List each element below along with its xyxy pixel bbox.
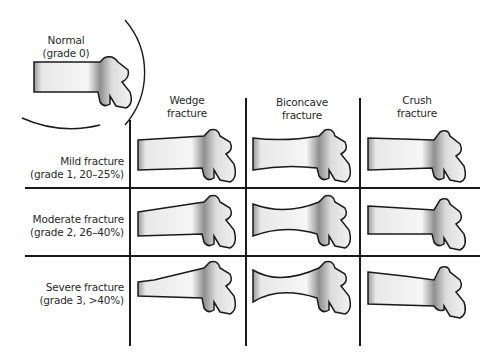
vertebra-biconcave-severe <box>249 260 361 324</box>
row-header-line: (grade 2, 26–40%) <box>0 226 124 239</box>
column-header-crush: Crush fracture <box>362 94 472 120</box>
column-header-line: fracture <box>247 109 357 122</box>
vertebra-crush-mild <box>364 126 476 190</box>
normal-title: Normal <box>36 34 96 47</box>
row-header-severe: Severe fracture (grade 3, >40%) <box>0 281 124 307</box>
column-header-line: fracture <box>362 107 472 120</box>
column-header-wedge: Wedge fracture <box>132 94 242 120</box>
row-header-line: (grade 3, >40%) <box>0 294 124 307</box>
row-header-mild: Mild fracture (grade 1, 20–25%) <box>0 155 124 181</box>
row-header-moderate: Moderate fracture (grade 2, 26–40%) <box>0 213 124 239</box>
row-header-line: Severe fracture <box>0 281 124 294</box>
vertebra-wedge-mild <box>134 126 246 190</box>
vertebra-crush-moderate <box>364 192 476 256</box>
column-header-line: Wedge <box>132 94 242 107</box>
vertebra-wedge-moderate <box>134 192 246 256</box>
column-header-line: Biconcave <box>247 96 357 109</box>
row-header-line: Moderate fracture <box>0 213 124 226</box>
column-header-line: Crush <box>362 94 472 107</box>
vertebra-crush-severe <box>364 260 476 324</box>
vertebra-normal <box>30 56 140 112</box>
vertebra-wedge-severe <box>134 260 246 324</box>
vertebra-biconcave-moderate <box>249 192 361 256</box>
grid-line-vertical <box>129 120 131 346</box>
row-header-line: Mild fracture <box>0 155 124 168</box>
column-header-biconcave: Biconcave fracture <box>247 96 357 122</box>
vertebra-biconcave-mild <box>249 126 361 190</box>
column-header-line: fracture <box>132 107 242 120</box>
row-header-line: (grade 1, 20–25%) <box>0 168 124 181</box>
